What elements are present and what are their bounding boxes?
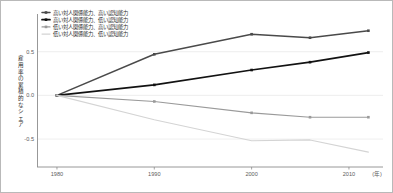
legend-label-2: 低い対人関係能力、高い認知能力 — [53, 23, 128, 31]
y-tick-label-0.0: 0.0 — [26, 92, 34, 98]
y-axis-title-char: ア — [18, 121, 24, 127]
data-point-marker — [153, 100, 156, 103]
y-axis-title-char: ェ — [18, 115, 24, 121]
y-axis-title: 雇用率の累積的なシェア — [18, 54, 24, 127]
line-chart: 0.50.0-0.5 1980199020002010 (年) 雇用率の累積的な… — [1, 1, 393, 193]
series-line-0 — [57, 31, 368, 96]
data-point-marker — [309, 61, 312, 64]
chart-legend: 高い対人関係能力、高い認知能力高い対人関係能力、低い認知能力低い対人関係能力、高… — [42, 9, 128, 39]
x-tick-label-1980: 1980 — [51, 171, 63, 177]
x-tick-label-1990: 1990 — [148, 171, 160, 177]
x-tick-label-2000: 2000 — [245, 171, 257, 177]
series-line-2 — [57, 95, 368, 117]
legend-label-3: 低い対人関係能力、低い認知能力 — [53, 30, 128, 38]
data-point-marker — [250, 112, 253, 115]
legend-swatch-marker-2 — [45, 26, 48, 29]
data-point-marker — [153, 53, 156, 56]
y-axis-title-char: 累 — [18, 82, 24, 88]
data-point-marker — [309, 116, 312, 119]
data-point-marker — [367, 29, 370, 32]
y-axis-title-char: の — [18, 75, 24, 81]
y-tick-label--0.5: -0.5 — [24, 136, 34, 142]
chart-figure: 0.50.0-0.5 1980199020002010 (年) 雇用率の累積的な… — [0, 0, 393, 193]
data-point-marker — [367, 51, 370, 54]
gridlines-group — [38, 52, 384, 139]
legend-swatch-marker-0 — [45, 11, 48, 14]
data-point-marker — [250, 69, 253, 72]
y-axis-title-char: な — [18, 102, 24, 108]
y-tick-label-0.5: 0.5 — [26, 49, 34, 55]
x-axis-unit-text: (年) — [372, 170, 382, 178]
y-tick-labels-group: 0.50.0-0.5 — [24, 49, 34, 142]
x-axis-unit-label: (年) — [372, 170, 382, 178]
x-tick-label-2010: 2010 — [343, 171, 355, 177]
series-line-3 — [57, 95, 368, 152]
legend-label-1: 高い対人関係能力、低い認知能力 — [53, 16, 128, 24]
data-point-marker — [250, 33, 253, 36]
data-point-marker — [153, 84, 156, 87]
legend-label-0: 高い対人関係能力、高い認知能力 — [53, 9, 128, 17]
data-point-marker — [367, 116, 370, 119]
data-point-marker — [309, 36, 312, 39]
series-line-1 — [57, 53, 368, 96]
y-axis-title-char: シ — [18, 108, 24, 114]
x-tick-labels-group: 1980199020002010 — [51, 171, 355, 177]
legend-swatch-marker-1 — [45, 18, 48, 21]
data-series-group — [56, 29, 370, 152]
